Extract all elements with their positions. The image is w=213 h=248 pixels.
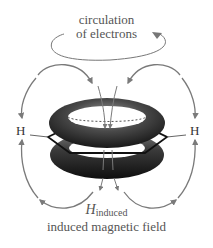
ch-bond-right-icon <box>167 135 186 137</box>
field-symbol-subscript: induced <box>96 207 128 218</box>
circulation-label-line1: circulation <box>0 13 213 27</box>
upper-pi-torus-icon <box>49 98 165 148</box>
induced-field-label: Hinduced induced magnetic field <box>0 203 213 234</box>
hydrogen-atom-right: H <box>190 123 199 139</box>
field-symbol-letter: H <box>86 202 96 217</box>
ch-bond-left-icon <box>30 135 48 137</box>
induced-field-symbol: Hinduced <box>0 203 213 220</box>
hydrogen-atom-left: H <box>16 123 25 139</box>
circulation-label: circulation of electrons <box>0 13 213 41</box>
circulation-label-line2: of electrons <box>0 27 213 41</box>
benzene-ring-current-diagram: circulation of electrons H H Hinduced in… <box>0 0 213 248</box>
field-symbol-h: Hinduced <box>86 202 128 217</box>
induced-field-caption: induced magnetic field <box>0 220 213 234</box>
